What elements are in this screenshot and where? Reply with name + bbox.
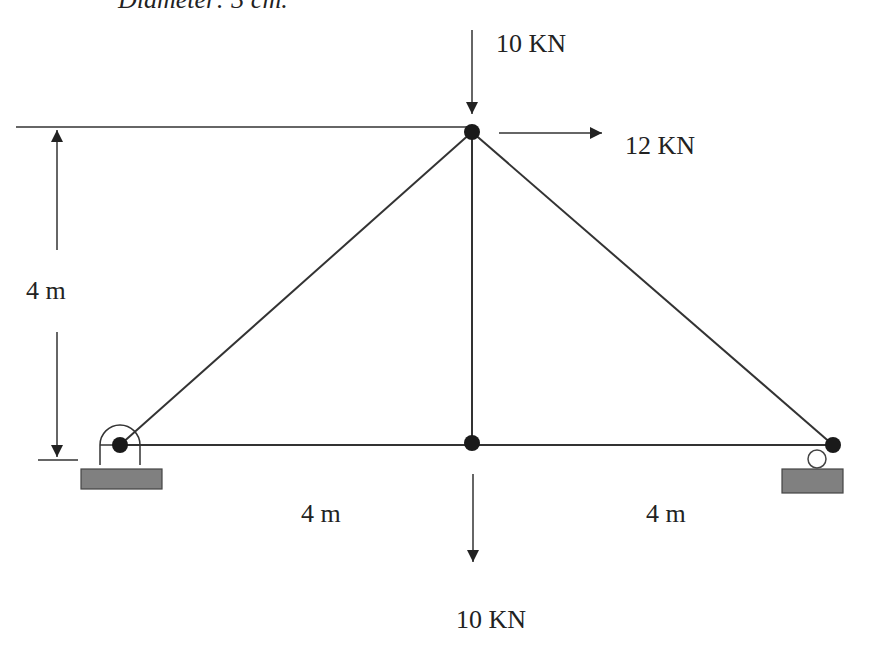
height-dimension-label: 4 m (26, 276, 66, 305)
roller-support-icon (782, 450, 843, 493)
pin-support-icon (81, 425, 162, 489)
top-horizontal-load-label: 12 KN (625, 131, 695, 160)
node-left-support (112, 437, 128, 453)
right-span-label: 4 m (646, 499, 686, 528)
node-right-support (825, 437, 841, 453)
left-span-label: 4 m (301, 499, 341, 528)
caption-text: Diameter: 3 cm. (117, 0, 288, 14)
left-diagonal-member (120, 132, 472, 445)
node-top-apex (464, 124, 480, 140)
node-bottom-middle (464, 435, 480, 451)
top-vertical-load-label: 10 KN (496, 29, 566, 58)
bottom-vertical-load-label: 10 KN (456, 605, 526, 634)
truss-diagram: Diameter: 3 cm. 4 m 10 KN 12 KN 10 KN 4 … (0, 0, 879, 655)
right-diagonal-member (472, 132, 833, 445)
